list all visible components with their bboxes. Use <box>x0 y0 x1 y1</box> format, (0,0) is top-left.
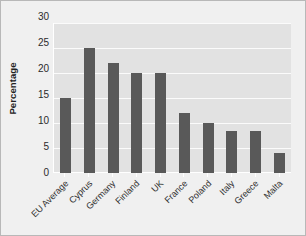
x-label-slot: Greece <box>243 177 267 233</box>
plot-area <box>53 23 291 173</box>
bar-poland[interactable] <box>203 123 214 173</box>
x-label-slot: Finland <box>124 177 148 233</box>
bar-slot <box>125 23 149 173</box>
y-axis-tick-labels: 30 25 20 15 10 5 0 <box>23 17 49 173</box>
y-tick-label: 25 <box>38 38 49 48</box>
x-label-slot: Poland <box>196 177 220 233</box>
y-tick-label: 0 <box>43 168 49 178</box>
x-axis-category-labels: EU Average Cyprus Germany Finland UK Fra… <box>53 177 291 233</box>
bar-finland[interactable] <box>131 73 142 173</box>
y-tick-label: 20 <box>38 64 49 74</box>
y-tick-label: 5 <box>43 142 49 152</box>
bar-slot <box>196 23 220 173</box>
bar-slot <box>267 23 291 173</box>
bar-slot <box>173 23 197 173</box>
bar-eu-average[interactable] <box>60 98 71 173</box>
y-tick-label: 30 <box>38 12 49 22</box>
bar-france[interactable] <box>179 113 190 173</box>
bar-slot <box>54 23 78 173</box>
bar-cyprus[interactable] <box>84 48 95 173</box>
bar-malta[interactable] <box>274 153 285 173</box>
y-tick-label: 15 <box>38 90 49 100</box>
bar-slot <box>244 23 268 173</box>
x-label-slot: France <box>172 177 196 233</box>
bar-italy[interactable] <box>226 131 237 174</box>
x-label-slot: Malta <box>267 177 291 233</box>
bar-slot <box>149 23 173 173</box>
bar-slot <box>220 23 244 173</box>
bar-slot <box>78 23 102 173</box>
bar-slot <box>101 23 125 173</box>
x-label-uk: UK <box>150 179 165 194</box>
bar-greece[interactable] <box>250 131 261 174</box>
x-label-eu-average: EU Average <box>30 179 70 219</box>
bar-uk[interactable] <box>155 73 166 173</box>
bar-germany[interactable] <box>108 63 119 173</box>
bars-layer <box>54 23 291 173</box>
y-axis-title-label: Percentage <box>7 62 18 114</box>
y-axis-title: Percentage <box>3 1 21 176</box>
bar-chart-figure: Percentage 30 25 20 15 10 5 0 <box>0 0 306 236</box>
x-label-italy: Italy <box>219 179 237 197</box>
y-tick-label: 10 <box>38 116 49 126</box>
